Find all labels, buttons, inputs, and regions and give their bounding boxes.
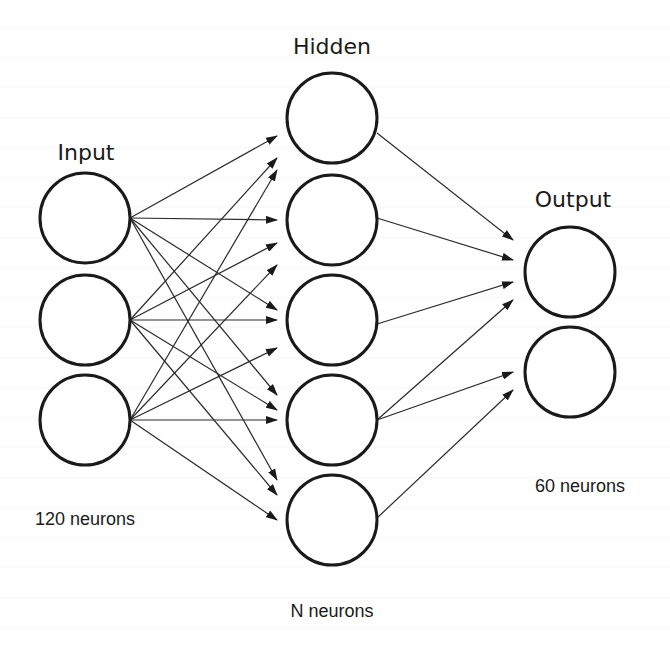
output-layer: Output 60 neurons	[525, 187, 625, 496]
hidden-to-output-connections	[377, 133, 513, 518]
connection-arrow	[130, 218, 277, 480]
connection-arrow	[130, 218, 277, 220]
output-neurons	[525, 227, 615, 417]
input-layer-title: Input	[58, 140, 115, 165]
output-neuron-2	[525, 327, 615, 417]
output-neuron-count: 60 neurons	[535, 476, 625, 496]
neural-network-diagram: Input 120 neurons Hidden N neurons Outpu…	[0, 0, 670, 652]
connection-arrow	[130, 136, 277, 218]
connection-arrow	[130, 420, 277, 520]
hidden-layer-title: Hidden	[293, 34, 371, 59]
connection-arrow	[130, 320, 277, 495]
hidden-neuron-4	[287, 375, 377, 465]
hidden-neuron-count: N neurons	[290, 601, 373, 621]
output-neuron-1	[525, 227, 615, 317]
input-to-hidden-connections	[130, 136, 277, 520]
input-neuron-2	[40, 275, 130, 365]
hidden-neuron-3	[287, 275, 377, 365]
connection-arrow	[377, 390, 513, 518]
output-layer-title: Output	[535, 187, 612, 212]
input-neuron-1	[40, 173, 130, 263]
input-neuron-3	[40, 375, 130, 465]
connection-arrow	[377, 372, 513, 420]
hidden-neuron-1	[287, 73, 377, 163]
hidden-neurons	[287, 73, 377, 565]
input-layer: Input 120 neurons	[35, 140, 135, 529]
hidden-neuron-5	[287, 475, 377, 565]
connection-arrow	[130, 348, 277, 420]
connection-arrow	[130, 243, 277, 320]
input-neuron-count: 120 neurons	[35, 509, 135, 529]
hidden-neuron-2	[287, 175, 377, 265]
connection-arrow	[130, 218, 277, 395]
input-neurons	[40, 173, 130, 465]
hidden-layer: Hidden N neurons	[287, 34, 377, 621]
